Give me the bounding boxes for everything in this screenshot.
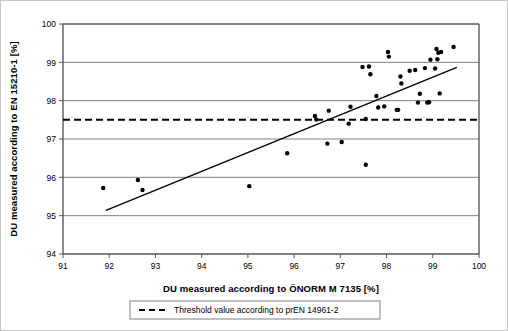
data-point [413,68,417,72]
legend-label: Threshold value according to prEN 14961-… [174,305,339,315]
data-point [428,57,432,61]
data-point [368,72,372,76]
data-point [364,162,368,166]
data-point [325,141,329,145]
y-axis-tick-label: 96 [47,173,57,183]
x-axis-tick-label: 97 [336,261,346,271]
data-point [398,74,402,78]
x-axis-tick-label: 93 [151,261,161,271]
data-point [101,186,105,190]
data-point [418,92,422,96]
chart-figure: 949596979899100919293949596979899100DU m… [0,0,508,331]
x-axis-tick-label: 91 [58,261,68,271]
data-point [407,69,411,73]
data-point [382,104,386,108]
data-point [340,140,344,144]
data-point [376,105,380,109]
x-axis-tick-label: 99 [428,261,438,271]
data-point [327,108,331,112]
data-point [438,91,442,95]
data-point [399,81,403,85]
y-axis-tick-label: 99 [47,58,57,68]
data-point [360,65,364,69]
data-point [348,105,352,109]
data-point [427,100,431,104]
x-axis-tick-label: 95 [243,261,253,271]
data-point [435,57,439,61]
data-point [314,117,318,121]
data-point [367,64,371,68]
data-point [423,66,427,70]
data-point [247,184,251,188]
x-axis-tick-label: 94 [197,261,207,271]
data-point [374,94,378,98]
y-axis-title: DU measured according to EN 15210-1 [%] [8,41,19,237]
x-axis-title: DU measured according to ÖNORM M 7135 [%… [163,283,379,294]
data-point [136,178,140,182]
data-point [140,188,144,192]
data-point [416,100,420,104]
data-point [434,47,438,51]
x-axis-tick-label: 92 [104,261,114,271]
data-point [346,121,350,125]
y-axis-tick-label: 94 [47,249,57,259]
y-axis-tick-label: 95 [47,211,57,221]
x-axis-tick-label: 100 [472,261,486,271]
data-point [364,117,368,121]
data-point [433,66,437,70]
x-axis-tick-label: 98 [382,261,392,271]
y-axis-tick-label: 100 [42,19,56,29]
data-point [439,50,443,54]
y-axis-tick-label: 97 [47,134,57,144]
data-point [451,45,455,49]
scatter-chart: 949596979899100919293949596979899100DU m… [1,1,508,331]
data-point [396,108,400,112]
x-axis-tick-label: 96 [289,261,299,271]
data-point [386,50,390,54]
data-point [387,54,391,58]
data-point [285,151,289,155]
y-axis-tick-label: 98 [47,96,57,106]
